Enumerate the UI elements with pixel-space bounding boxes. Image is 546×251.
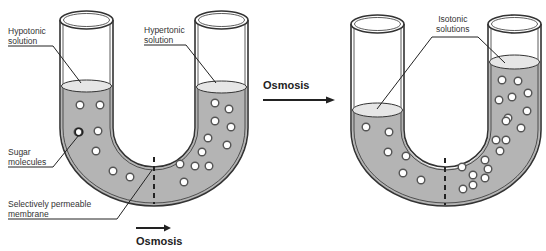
label-osmosis-bottom: Osmosis: [136, 235, 182, 247]
surface-hypotonic: [62, 80, 112, 92]
leader-lines-after: [377, 37, 505, 109]
arrow-middle: [263, 97, 335, 104]
label-osmosis-middle: Osmosis: [263, 79, 309, 91]
label-sugar-molecules: Sugar molecules: [8, 147, 46, 167]
label-isotonic: Isotonic solutions: [436, 14, 470, 34]
u-tube-after: [351, 15, 541, 206]
label-hypotonic: Hypotonic solution: [8, 26, 46, 46]
surface-isotonic-right: [490, 55, 540, 69]
surface-hypertonic: [197, 81, 247, 93]
arrow-bottom: [136, 225, 171, 232]
label-membrane: Selectively permeable membrane: [8, 199, 91, 219]
label-hypertonic: Hypertonic solution: [144, 25, 185, 45]
surface-isotonic-left: [353, 103, 403, 117]
